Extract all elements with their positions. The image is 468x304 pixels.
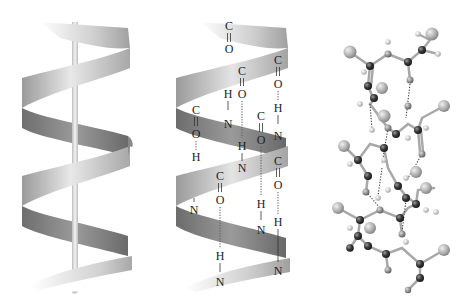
- svg-text:C: C: [216, 169, 224, 183]
- svg-text:C: C: [238, 64, 246, 78]
- svg-text:C: C: [274, 53, 282, 67]
- svg-text:H: H: [224, 87, 233, 101]
- svg-text:C: C: [257, 109, 265, 123]
- ribbon-helix-axis-illustration: HP: [0, 0, 150, 304]
- svg-text:N: N: [274, 129, 283, 143]
- svg-text:N: N: [216, 275, 225, 289]
- svg-text:O: O: [274, 178, 283, 192]
- svg-text:O: O: [238, 87, 247, 101]
- svg-text:H: H: [192, 150, 201, 164]
- helix-axis-rod: [72, 22, 78, 270]
- ball-and-stick-panel: [310, 0, 468, 304]
- svg-text:C: C: [274, 154, 282, 168]
- svg-text:H: H: [274, 215, 283, 229]
- ribbon-helix-hbond-panel: C O C O H N H N C O H N: [150, 0, 310, 304]
- ribbon-helix-axis-panel: HP: [0, 0, 150, 304]
- svg-text:C: C: [225, 19, 233, 33]
- ball-and-stick-model: [310, 0, 468, 304]
- svg-text:O: O: [192, 127, 201, 141]
- svg-text:H: H: [216, 249, 225, 263]
- svg-text:H: H: [274, 101, 283, 115]
- svg-text:N: N: [274, 264, 283, 278]
- hydrogen-bonds: [368, 84, 422, 232]
- svg-text:C: C: [192, 103, 200, 117]
- svg-text:N: N: [190, 203, 199, 217]
- svg-text:H: H: [257, 197, 266, 211]
- ribbon-helix-hbond-illustration: C O C O H N H N C O H N: [150, 0, 310, 304]
- svg-text:O: O: [216, 193, 225, 207]
- svg-text:N: N: [224, 117, 233, 131]
- svg-text:N: N: [238, 161, 247, 175]
- footer-mark: HP: [72, 290, 78, 295]
- svg-text:O: O: [274, 77, 283, 91]
- svg-text:O: O: [257, 133, 266, 147]
- svg-text:H: H: [238, 139, 247, 153]
- svg-text:O: O: [225, 42, 234, 56]
- covalent-bonds: [338, 34, 444, 290]
- svg-text:N: N: [257, 223, 266, 237]
